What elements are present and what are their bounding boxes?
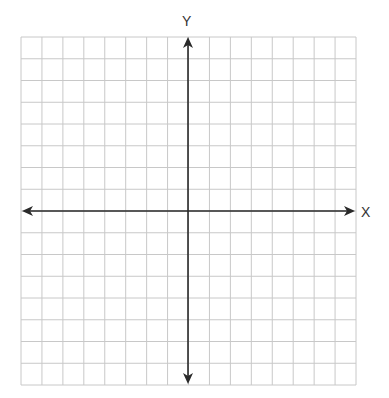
axes (22, 37, 355, 384)
x-axis-label: X (361, 205, 370, 219)
y-axis-label: Y (182, 14, 191, 28)
coordinate-plane (0, 0, 389, 398)
